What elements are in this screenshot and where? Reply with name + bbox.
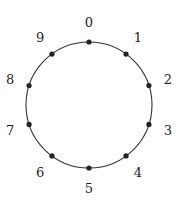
node-dot-6 (49, 153, 54, 158)
node-label-5: 5 (85, 181, 93, 196)
node-label-4: 4 (134, 165, 142, 180)
ring-diagram: 0123456789 (0, 0, 186, 206)
node-dot-7 (26, 122, 31, 127)
diagram-canvas: 0123456789 (0, 0, 186, 206)
node-dot-8 (26, 83, 31, 88)
node-label-0: 0 (85, 15, 93, 30)
node-label-9: 9 (36, 30, 44, 45)
node-dot-3 (146, 122, 151, 127)
node-label-2: 2 (164, 72, 172, 87)
ring-circle (26, 42, 152, 168)
node-dot-5 (86, 165, 91, 170)
node-dot-2 (146, 83, 151, 88)
node-label-7: 7 (6, 123, 14, 138)
node-dot-4 (123, 153, 128, 158)
node-dot-1 (123, 51, 128, 56)
node-label-6: 6 (36, 165, 44, 180)
node-dot-0 (86, 39, 91, 44)
node-label-3: 3 (164, 123, 172, 138)
node-label-1: 1 (134, 30, 142, 45)
node-dot-9 (49, 51, 54, 56)
node-label-8: 8 (6, 72, 14, 87)
